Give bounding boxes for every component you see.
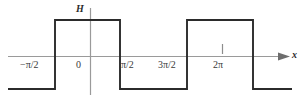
x-axis-label: x bbox=[292, 50, 297, 60]
square-wave-figure: −π/2 0 π/2 3π/2 2π H x bbox=[0, 0, 305, 103]
square-wave-curve bbox=[8, 20, 292, 89]
x-axis bbox=[8, 53, 290, 61]
x-tick-label-two-pi: 2π bbox=[213, 60, 223, 70]
plot-canvas bbox=[0, 0, 305, 103]
x-tick-label-three-pi-over-2: 3π/2 bbox=[158, 60, 176, 70]
x-tick-label-zero: 0 bbox=[76, 60, 81, 70]
x-tick-label-neg-pi-over-2: −π/2 bbox=[20, 60, 38, 70]
x-tick-label-pi-over-2: π/2 bbox=[121, 60, 134, 70]
y-axis-label: H bbox=[76, 4, 84, 14]
x-axis-arrowhead bbox=[278, 53, 290, 61]
